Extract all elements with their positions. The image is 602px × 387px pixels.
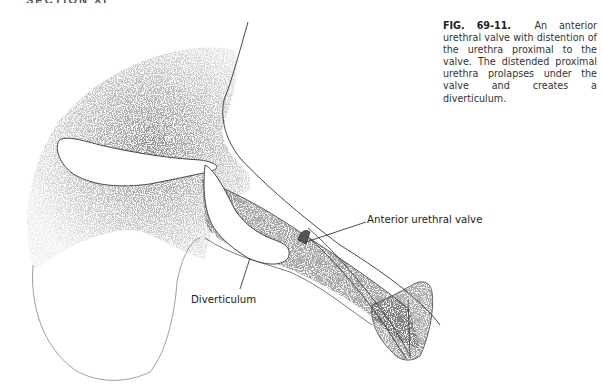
tissue-outline-lower [32, 238, 200, 380]
valve-leader-line [306, 222, 366, 242]
label-anterior-urethral-valve: Anterior urethral valve [367, 214, 482, 225]
figure-number: FIG. 69-11. [443, 20, 511, 31]
diverticulum-leader-line [240, 258, 250, 289]
label-diverticulum: Diverticulum [191, 294, 256, 305]
figure-caption-text: An anterior urethral valve with distenti… [443, 20, 597, 104]
figure-caption: FIG. 69-11. An anterior urethral valve w… [443, 20, 597, 105]
